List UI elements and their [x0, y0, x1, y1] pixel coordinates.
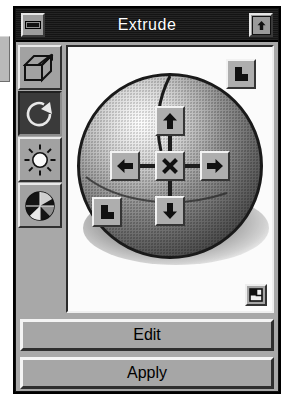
- action-bar: Edit Apply: [20, 319, 274, 395]
- page-icon: [249, 288, 263, 302]
- tool-extrude[interactable]: [18, 45, 62, 90]
- title-bar[interactable]: Extrude: [16, 9, 278, 42]
- screen: Extrude: [0, 0, 293, 402]
- move-northeast-button[interactable]: [226, 59, 256, 89]
- zoom-button[interactable]: [249, 13, 273, 37]
- arrow-diagonal-icon: [98, 203, 116, 221]
- window-body: Edit Apply: [16, 42, 278, 391]
- move-southwest-button[interactable]: [92, 197, 122, 227]
- close-icon: [25, 21, 41, 29]
- move-left-button[interactable]: [110, 151, 140, 181]
- close-button[interactable]: [21, 13, 45, 37]
- move-up-button[interactable]: [155, 106, 185, 136]
- page-corner-button[interactable]: [245, 284, 267, 306]
- extrude-window: Extrude: [13, 6, 281, 394]
- apply-button[interactable]: Apply: [20, 357, 274, 389]
- background-window-sliver: [0, 36, 10, 82]
- rotate-icon: [24, 99, 56, 129]
- window-title: Extrude: [118, 16, 177, 34]
- reset-center-button[interactable]: [155, 151, 185, 181]
- tool-light[interactable]: [18, 137, 62, 182]
- tool-rotate[interactable]: [18, 91, 62, 136]
- move-down-button[interactable]: [155, 196, 185, 226]
- arrow-up-box-icon: [252, 16, 271, 35]
- arrow-left-icon: [116, 157, 134, 175]
- extrude-box-icon: [23, 53, 57, 83]
- tool-shading[interactable]: [18, 183, 62, 228]
- arrow-right-icon: [206, 157, 224, 175]
- preview-canvas[interactable]: [66, 45, 274, 313]
- direction-control-cluster: [110, 106, 230, 226]
- cross-x-icon: [161, 157, 179, 175]
- arrow-diagonal-icon: [232, 65, 250, 83]
- arrow-up-icon: [161, 112, 179, 130]
- sphere-shading-icon: [24, 190, 56, 222]
- sun-light-icon: [23, 143, 57, 177]
- edit-button[interactable]: Edit: [20, 319, 274, 351]
- window-inner-frame: Extrude: [15, 8, 279, 392]
- arrow-down-icon: [161, 202, 179, 220]
- canvas-stage: [68, 47, 272, 311]
- move-right-button[interactable]: [200, 151, 230, 181]
- tool-palette: [18, 45, 62, 229]
